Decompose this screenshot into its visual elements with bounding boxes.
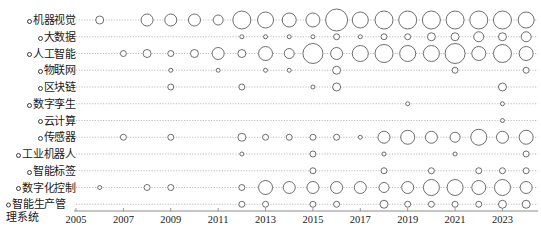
bubble-point[interactable] (259, 181, 273, 195)
bubble-point[interactable] (190, 50, 198, 58)
bubble-point[interactable] (98, 186, 102, 190)
bubble-point[interactable] (427, 33, 435, 41)
bubble-point[interactable] (287, 68, 291, 72)
bubble-point[interactable] (498, 33, 506, 41)
bubble-point[interactable] (474, 32, 484, 42)
bubble-point[interactable] (240, 35, 244, 39)
bubble-point[interactable] (402, 182, 414, 194)
bubble-point[interactable] (310, 168, 316, 174)
bubble-point[interactable] (423, 180, 439, 196)
bubble-point[interactable] (520, 182, 532, 194)
bubble-point[interactable] (354, 182, 366, 194)
bubble-point[interactable] (352, 46, 368, 62)
bubble-point[interactable] (238, 133, 246, 141)
bubble-point[interactable] (216, 68, 220, 72)
bubble-point[interactable] (500, 102, 504, 106)
bubble-point[interactable] (453, 152, 457, 156)
bubble-point[interactable] (168, 84, 174, 90)
bubble-point[interactable] (499, 168, 505, 174)
bubble-point[interactable] (450, 132, 460, 142)
bubble-point[interactable] (493, 45, 511, 63)
bubble-point[interactable] (375, 11, 393, 29)
bubble-point[interactable] (494, 180, 510, 196)
bubble-point[interactable] (331, 48, 343, 60)
bubble-point[interactable] (452, 201, 458, 207)
bubble-point[interactable] (238, 50, 246, 58)
bubble-point[interactable] (500, 119, 504, 123)
bubble-point[interactable] (282, 13, 296, 27)
bubble-point[interactable] (425, 131, 437, 143)
bubble-point[interactable] (401, 130, 415, 144)
bubble-point[interactable] (493, 11, 511, 29)
bubble-point[interactable] (120, 51, 126, 57)
bubble-point[interactable] (522, 200, 530, 208)
bubble-point[interactable] (496, 131, 508, 143)
bubble-point[interactable] (423, 46, 439, 62)
bubble-point[interactable] (523, 151, 529, 157)
bubble-point[interactable] (310, 201, 316, 207)
bubble-point[interactable] (188, 14, 200, 26)
bubble-point[interactable] (521, 32, 531, 42)
bubble-point[interactable] (144, 185, 150, 191)
bubble-point[interactable] (447, 180, 463, 196)
bubble-point[interactable] (165, 14, 177, 26)
bubble-point[interactable] (498, 200, 506, 208)
bubble-point[interactable] (378, 131, 390, 143)
bubble-point[interactable] (334, 34, 340, 40)
bubble-point[interactable] (264, 35, 268, 39)
bubble-point[interactable] (333, 83, 341, 91)
bubble-point[interactable] (446, 11, 464, 29)
bubble-point[interactable] (334, 201, 340, 207)
bubble-point[interactable] (283, 182, 295, 194)
bubble-point[interactable] (168, 185, 174, 191)
bubble-point[interactable] (375, 45, 393, 63)
bubble-point[interactable] (519, 47, 533, 61)
bubble-point[interactable] (428, 201, 434, 207)
bubble-point[interactable] (405, 201, 411, 207)
bubble-point[interactable] (471, 129, 487, 145)
bubble-point[interactable] (472, 47, 486, 61)
bubble-point[interactable] (472, 181, 486, 195)
bubble-point[interactable] (263, 134, 269, 140)
bubble-point[interactable] (476, 201, 482, 207)
bubble-point[interactable] (239, 185, 245, 191)
bubble-point[interactable] (334, 134, 340, 140)
bubble-point[interactable] (405, 34, 411, 40)
bubble-point[interactable] (519, 130, 533, 144)
bubble-point[interactable] (168, 51, 174, 57)
bubble-point[interactable] (212, 48, 224, 60)
bubble-point[interactable] (326, 9, 348, 31)
bubble-point[interactable] (331, 182, 343, 194)
bubble-point[interactable] (381, 168, 387, 174)
bubble-point[interactable] (382, 152, 386, 156)
bubble-point[interactable] (399, 11, 417, 29)
bubble-point[interactable] (358, 35, 362, 39)
bubble-point[interactable] (168, 134, 174, 140)
bubble-point[interactable] (428, 168, 434, 174)
bubble-point[interactable] (287, 35, 291, 39)
bubble-point[interactable] (451, 33, 459, 41)
bubble-point[interactable] (523, 67, 529, 73)
bubble-point[interactable] (400, 46, 416, 62)
bubble-point[interactable] (452, 67, 458, 73)
bubble-point[interactable] (120, 134, 126, 140)
bubble-point[interactable] (310, 151, 316, 157)
bubble-point[interactable] (470, 11, 488, 29)
bubble-point[interactable] (311, 85, 315, 89)
bubble-point[interactable] (239, 201, 245, 207)
bubble-point[interactable] (518, 12, 534, 28)
bubble-point[interactable] (406, 102, 410, 106)
bubble-point[interactable] (311, 35, 315, 39)
bubble-point[interactable] (213, 15, 223, 25)
bubble-point[interactable] (381, 34, 387, 40)
bubble-point[interactable] (96, 16, 104, 24)
bubble-point[interactable] (523, 168, 529, 174)
bubble-point[interactable] (239, 84, 245, 90)
bubble-point[interactable] (258, 12, 274, 28)
bubble-point[interactable] (445, 44, 465, 64)
bubble-point[interactable] (259, 47, 273, 61)
bubble-point[interactable] (307, 182, 319, 194)
bubble-point[interactable] (306, 13, 320, 27)
bubble-point[interactable] (358, 135, 362, 139)
bubble-point[interactable] (498, 83, 506, 91)
